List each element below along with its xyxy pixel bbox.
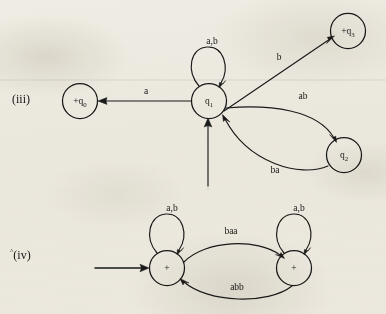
edge-curve-q1-q2 (226, 107, 334, 138)
edge-label-s1-s2: baa (224, 226, 238, 236)
edge-label-q2-q1: ba (271, 165, 281, 175)
edge-label-q1-q0: a (144, 86, 149, 96)
transition-q1-q0[interactable]: a (98, 86, 191, 104)
start-arrowhead-iii (204, 118, 212, 127)
part-iii-marker: (iii) (12, 92, 30, 106)
state-node-q2[interactable]: q2 (327, 138, 362, 173)
edge-line-q1-q3 (224, 39, 330, 111)
state-node-s1[interactable]: + (150, 251, 185, 286)
edge-label-q1-q3: b (277, 52, 282, 62)
state-label-q2: q2 (340, 150, 349, 161)
state-node-q1[interactable]: q1 (192, 84, 227, 119)
edge-label-s2-self: a,b (293, 203, 305, 213)
edge-curve-s1-s2 (184, 244, 280, 262)
start-arrow-iv (95, 264, 149, 272)
part-iv-group: ^(iv) + + a,b a,b (10, 203, 312, 299)
transition-q1-q3[interactable]: b (224, 36, 335, 111)
part-iv-marker: ^(iv) (10, 247, 31, 262)
edge-loop-s2 (277, 214, 311, 253)
transition-s1-s2[interactable]: baa (184, 226, 285, 262)
state-node-q3[interactable]: +q3 (331, 14, 366, 49)
start-arrow-iii (204, 118, 212, 186)
state-label-q0: +q0 (73, 96, 87, 107)
state-label-q1: q1 (205, 96, 213, 107)
edge-loop-s1 (150, 214, 184, 253)
transition-q2-q1[interactable]: ba (223, 115, 329, 176)
part-iii-group: (iii) +q0 q1 q2 +q3 (12, 14, 366, 187)
edge-label-s1-self: a,b (166, 203, 178, 213)
transition-s1-self[interactable]: a,b (150, 203, 184, 255)
figure-stage: (iii) +q0 q1 q2 +q3 (0, 0, 386, 314)
state-label-s1: + (164, 263, 169, 273)
arrowhead-q1-q0 (98, 98, 107, 105)
edge-label-q1-self: a,b (206, 36, 218, 46)
transition-s2-s1[interactable]: abb (180, 279, 292, 300)
edge-curve-q2-q1 (225, 119, 328, 170)
transition-s2-self[interactable]: a,b (277, 203, 311, 255)
scan-artifacts (0, 80, 386, 190)
edge-label-q1-q2: ab (299, 91, 308, 101)
start-arrowhead-iv (140, 264, 149, 272)
state-node-q0[interactable]: +q0 (63, 84, 98, 119)
diagram-canvas: (iii) +q0 q1 q2 +q3 (0, 0, 386, 314)
state-label-s2: + (291, 263, 296, 273)
state-label-q3: +q3 (341, 26, 355, 37)
arrowhead-s2-s1 (180, 279, 189, 286)
edge-label-s2-s1: abb (230, 282, 244, 292)
